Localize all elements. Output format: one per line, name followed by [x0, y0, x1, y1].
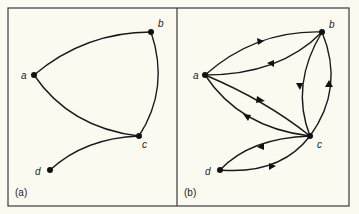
figure-frame — [8, 8, 349, 206]
edge-b-to-a — [205, 32, 322, 75]
node-b — [319, 29, 325, 35]
edge-a-c — [34, 75, 139, 136]
edge-a-b — [34, 32, 151, 75]
panel-a: a b c d (a) — [15, 18, 164, 198]
edge-c-to-d — [220, 136, 310, 170]
panel-caption-a: (a) — [15, 187, 27, 198]
node-label-c: c — [142, 139, 147, 150]
node-label-a: a — [21, 70, 27, 81]
node-b — [148, 29, 154, 35]
figure: a b c d (a) a b — [0, 0, 359, 214]
arrow-a-to-b-icon — [257, 38, 264, 45]
edge-c-d — [50, 136, 139, 170]
node-a — [31, 72, 37, 78]
node-label-b: b — [158, 18, 164, 29]
node-label-a: a — [193, 70, 199, 81]
node-d — [47, 167, 53, 173]
edge-d-to-c — [220, 136, 310, 171]
edge-a-to-b — [205, 32, 322, 75]
arrow-a-to-c-icon — [256, 96, 265, 103]
node-label-b: b — [329, 19, 335, 30]
edge-c-to-a — [205, 75, 310, 136]
node-label-c: c — [317, 139, 322, 150]
node-a — [202, 72, 208, 78]
edge-b-c — [139, 32, 158, 136]
node-d — [217, 167, 223, 173]
node-c — [307, 133, 313, 139]
node-label-d: d — [205, 166, 211, 177]
node-label-d: d — [35, 166, 41, 177]
edge-a-to-c — [205, 75, 310, 136]
panel-caption-b: (b) — [184, 187, 196, 198]
arrow-c-to-b-icon — [325, 80, 333, 87]
panel-b: a b c d (b) — [184, 19, 335, 198]
